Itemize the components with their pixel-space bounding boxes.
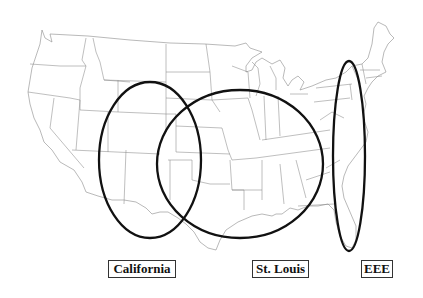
us-map (0, 0, 423, 298)
eee-label: EEE (361, 260, 393, 278)
california-label: California (108, 260, 176, 278)
st-louis-label: St. Louis (252, 260, 309, 278)
